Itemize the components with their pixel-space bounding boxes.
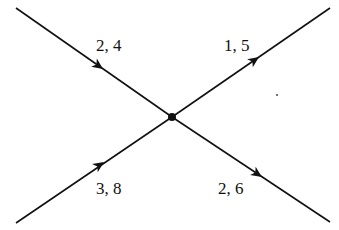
label-top-right: 1, 5	[224, 36, 250, 55]
arrow-top-left-icon	[91, 59, 106, 74]
junction-node	[168, 113, 176, 121]
diagram-canvas: 2, 4 1, 5 3, 8 2, 6	[0, 0, 339, 230]
arrow-top-right-icon	[247, 53, 262, 67]
edge-top-right	[172, 8, 330, 117]
label-bottom-right: 2, 6	[218, 179, 244, 198]
stray-dot	[276, 94, 278, 96]
arrow-bottom-right-icon	[250, 167, 265, 181]
edge-bottom-right	[172, 117, 330, 222]
edge-bottom-left	[16, 117, 172, 223]
edge-top-left	[16, 8, 172, 117]
label-top-left: 2, 4	[96, 36, 122, 55]
label-bottom-left: 3, 8	[96, 179, 122, 198]
